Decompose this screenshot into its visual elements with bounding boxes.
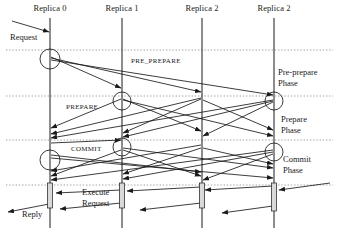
phase-label-2: Prepare [281,115,307,124]
arrow-prepare-r3-r2 [203,102,273,136]
participant-label-0: Replica 0 [16,4,84,13]
arrow-reply-client-r3 [222,206,273,213]
arrow-prepare-r1-r3 [123,100,273,136]
arrow-reply-tail-r3-right [279,183,330,190]
participant-label-3: Replica 2 [240,4,308,13]
arrow-commit-r0-r1 [51,140,121,143]
activation-bar-1 [120,183,125,208]
activation-bar-3 [272,183,277,211]
annotation-label-0: Request [10,33,37,42]
arrow-reply-r3-r2 [205,186,273,190]
phase-label-1: Phase [278,79,298,88]
annotation-label-1: Execute [82,188,109,197]
phase-label-4: Commit [283,155,311,164]
arrow-reply-client-r2 [140,203,201,210]
phase-label-3: Phase [281,126,301,135]
arrow-commit-r1-r3 [123,148,273,168]
arrow-reply-r2-r1 [127,187,201,191]
message-label-0: PRE_PREPARE [131,58,181,66]
participant-label-1: Replica 1 [88,4,156,13]
message-label-2: COMMIT [71,146,102,154]
arrow-prepare-r3-r1 [123,101,273,137]
message-label-1: PREPARE [66,104,98,112]
arrow-commit-r2-r3 [203,148,273,164]
annotation-label-2: Request [82,199,109,208]
participant-label-2: Replica 2 [168,4,236,13]
annotation-label-3: Reply [22,210,42,219]
arrow-client-request [12,21,49,32]
pbft-sequence-diagram: Replica 0Replica 1Replica 2Replica 2 PRE… [0,0,339,234]
activation-bar-2 [200,183,205,208]
phase-label-5: Phase [283,166,303,175]
phase-label-0: Pre-prepare [278,68,318,77]
activation-bar-0 [48,183,53,208]
